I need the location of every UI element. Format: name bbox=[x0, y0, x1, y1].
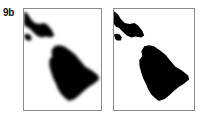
island-map-blurred bbox=[24, 9, 101, 110]
map-panel-blurred bbox=[23, 8, 102, 111]
hawaii-big-island bbox=[49, 45, 99, 101]
map-panel-sharp bbox=[113, 8, 195, 111]
maui-island bbox=[114, 11, 144, 37]
figure-label: 9b bbox=[3, 7, 14, 18]
maui-island bbox=[24, 11, 54, 37]
kahoolawe-island bbox=[24, 34, 32, 41]
island-map-sharp bbox=[114, 9, 194, 110]
kahoolawe-island bbox=[114, 34, 122, 41]
hawaii-big-island bbox=[139, 45, 189, 101]
